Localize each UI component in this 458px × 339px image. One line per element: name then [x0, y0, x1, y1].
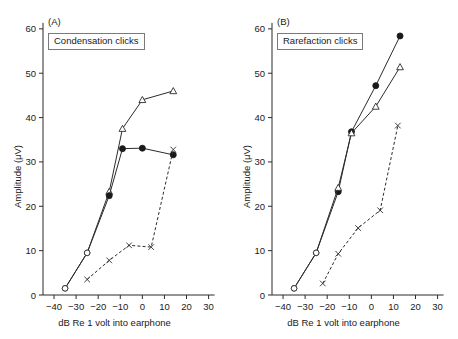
x-tick-label: −40	[275, 301, 291, 312]
panel-b: 0102030405060−40−30−20−100102030 (B) Rar…	[229, 0, 458, 339]
x-tick-label: −10	[112, 301, 128, 312]
x-tick-label: −30	[68, 301, 84, 312]
data-point-cross	[106, 258, 112, 264]
data-point-cross	[320, 281, 326, 287]
data-point-open-triangle	[397, 64, 404, 70]
y-tick-label: 10	[25, 245, 36, 256]
data-point-cross	[355, 225, 361, 231]
panel-b-legend-box: Rarefaction clicks	[277, 33, 363, 50]
x-tick-label: 20	[410, 301, 421, 312]
data-point-cross	[335, 251, 341, 257]
x-tick-label: −30	[297, 301, 313, 312]
x-tick-label: 0	[369, 301, 374, 312]
x-tick-label: 10	[388, 301, 399, 312]
panel-a-plot: 0102030405060−40−30−20−100102030	[0, 0, 229, 339]
panel-a: 0102030405060−40−30−20−100102030 (A) Con…	[0, 0, 229, 339]
y-tick-label: 40	[25, 112, 36, 123]
y-tick-label: 20	[254, 201, 265, 212]
y-tick-label: 60	[254, 23, 265, 34]
data-point-open-circle	[62, 286, 68, 292]
x-tick-label: 20	[181, 301, 192, 312]
data-point-open-triangle	[119, 125, 126, 131]
data-point-open-triangle	[372, 103, 379, 109]
x-tick-label: −10	[341, 301, 357, 312]
y-tick-label: 0	[260, 290, 265, 301]
series-line-filled-circle	[294, 36, 400, 288]
x-tick-label: −20	[90, 301, 106, 312]
panel-b-x-axis-label: dB Re 1 volt into earphone	[229, 317, 458, 328]
series-line-cross	[87, 150, 173, 280]
figure-container: 0102030405060−40−30−20−100102030 (A) Con…	[0, 0, 458, 339]
data-point-cross	[84, 277, 90, 283]
x-tick-label: 30	[203, 301, 214, 312]
panel-a-legend-box: Condensation clicks	[48, 33, 145, 50]
y-tick-label: 50	[25, 68, 36, 79]
y-tick-label: 20	[25, 201, 36, 212]
data-point-open-circle	[291, 286, 297, 292]
y-tick-label: 60	[25, 23, 36, 34]
data-point-cross	[126, 243, 132, 249]
data-point-open-circle	[84, 250, 90, 256]
data-point-filled-circle	[119, 146, 125, 152]
panel-a-y-axis-label: Amplitude (μV)	[12, 145, 23, 208]
data-point-filled-circle	[106, 193, 112, 199]
series-line-filled-circle	[65, 148, 173, 288]
panel-b-y-axis-label: Amplitude (μV)	[241, 145, 252, 208]
x-tick-label: 10	[159, 301, 170, 312]
series-line-open-triangle	[294, 67, 400, 288]
data-point-open-triangle	[170, 88, 177, 94]
y-tick-label: 40	[254, 112, 265, 123]
y-tick-label: 30	[254, 156, 265, 167]
series-line-open-triangle	[65, 91, 173, 288]
x-tick-label: 30	[432, 301, 443, 312]
y-tick-label: 30	[25, 156, 36, 167]
panel-b-plot: 0102030405060−40−30−20−100102030	[229, 0, 458, 339]
data-point-open-triangle	[335, 184, 342, 190]
y-tick-label: 10	[254, 245, 265, 256]
y-tick-label: 50	[254, 68, 265, 79]
x-tick-label: −40	[46, 301, 62, 312]
data-point-filled-circle	[139, 145, 145, 151]
data-point-filled-circle	[397, 33, 403, 39]
data-point-open-circle	[313, 250, 319, 256]
x-tick-label: 0	[140, 301, 145, 312]
y-tick-label: 0	[31, 290, 36, 301]
data-point-filled-circle	[373, 83, 379, 89]
panel-a-x-axis-label: dB Re 1 volt into earphone	[0, 317, 229, 328]
panel-b-letter: (B)	[277, 16, 290, 27]
panel-a-letter: (A)	[48, 16, 61, 27]
x-tick-label: −20	[319, 301, 335, 312]
